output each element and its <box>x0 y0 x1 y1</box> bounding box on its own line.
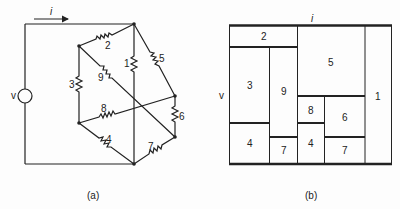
cell-label-6: 6 <box>342 112 348 123</box>
cell-label-7-right: 7 <box>342 145 348 156</box>
resistor-8 <box>79 96 175 123</box>
cell-label-5: 5 <box>328 57 334 68</box>
current-label-a: i <box>50 6 53 17</box>
resistor-1 <box>131 24 137 164</box>
cell-label-7-left: 7 <box>281 145 287 156</box>
cell-label-9: 9 <box>281 86 287 97</box>
cell-label-4-left: 4 <box>247 138 253 149</box>
resistor-label-3: 3 <box>69 79 75 90</box>
cell-label-1: 1 <box>375 91 381 102</box>
node-bottom <box>132 162 136 166</box>
nodes <box>77 22 177 166</box>
resistor-6 <box>172 96 178 137</box>
cell-label-3: 3 <box>247 80 253 91</box>
resistor-3 <box>76 46 82 123</box>
resistor-label-5: 5 <box>159 53 165 64</box>
caption-b: (b) <box>305 190 317 201</box>
node-top <box>132 22 136 26</box>
cell-label-2: 2 <box>261 31 267 42</box>
resistor-label-8: 8 <box>101 103 107 114</box>
current-label-b: i <box>311 13 314 24</box>
cell-label-8: 8 <box>308 105 314 116</box>
node-lower-right <box>173 135 177 139</box>
resistor-label-1: 1 <box>124 58 130 69</box>
figure-canvas: i v 2 1 5 3 9 8 6 4 7 (a) i <box>0 0 400 209</box>
node-upper-left <box>77 44 81 48</box>
caption-a: (a) <box>87 190 99 201</box>
resistor-label-2: 2 <box>105 40 111 51</box>
resistor-label-4: 4 <box>106 134 112 145</box>
resistor-label-9: 9 <box>98 72 104 83</box>
resistor-label-7: 7 <box>148 141 154 152</box>
node-upper-right <box>173 94 177 98</box>
circuit-diagram-a <box>18 19 178 166</box>
resistor-label-6: 6 <box>179 111 185 122</box>
resistor-7 <box>134 137 175 164</box>
cell-label-4-mid: 4 <box>308 138 314 149</box>
resistor-5 <box>134 24 175 96</box>
voltage-label-b: v <box>219 90 224 101</box>
voltage-source-icon <box>18 89 32 103</box>
source-label-a: v <box>11 90 16 101</box>
node-lower-left <box>77 121 81 125</box>
